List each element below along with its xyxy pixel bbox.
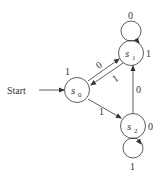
state-s0-sub: 0 bbox=[78, 91, 82, 99]
state-s0-output: 1 bbox=[65, 66, 70, 77]
self-loop-s2: 1 bbox=[123, 138, 143, 172]
state-s0: s 0 1 bbox=[65, 66, 90, 103]
start-label: Start bbox=[7, 85, 26, 96]
state-s0-name: s bbox=[71, 84, 75, 96]
self-loop-s2-label: 1 bbox=[130, 161, 135, 172]
state-s1-sub: 1 bbox=[132, 54, 136, 62]
transition-s2-s1-label: 0 bbox=[136, 84, 141, 95]
transition-s1-s0-label: 1 bbox=[110, 72, 120, 84]
transition-s2-s1: 0 bbox=[133, 66, 141, 113]
self-loop-s1: 0 bbox=[121, 10, 141, 43]
self-loop-s1-label: 0 bbox=[128, 10, 133, 21]
transition-s0-s1-label: 0 bbox=[94, 59, 104, 71]
transition-s0-s2-label: 1 bbox=[99, 106, 104, 117]
state-s1: s 1 1 bbox=[119, 41, 152, 66]
state-s1-name: s bbox=[125, 47, 129, 59]
transition-s0-s2: 1 bbox=[88, 99, 121, 118]
start-arrow: Start bbox=[7, 85, 64, 96]
state-s2-name: s bbox=[127, 120, 131, 132]
state-s2-output: 0 bbox=[148, 121, 153, 132]
fsm-diagram: Start s 0 1 s 1 1 s 2 0 0 1 1 0 bbox=[0, 0, 157, 177]
state-s1-output: 1 bbox=[146, 48, 151, 59]
state-s2: s 2 0 bbox=[121, 114, 154, 139]
state-s2-sub: 2 bbox=[134, 127, 138, 135]
